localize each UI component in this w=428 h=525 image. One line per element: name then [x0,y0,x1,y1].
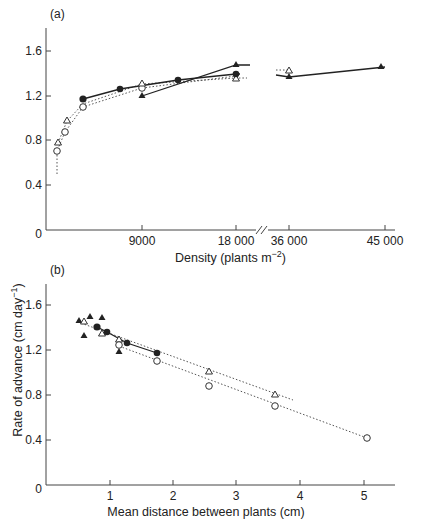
y-axis-title: Rate of advance (cm day−1) [9,283,25,436]
open-circle-markers [116,342,371,442]
open-triangle-markers [81,318,279,397]
y-tick-label: 1.6 [25,298,42,312]
y-ticks [46,305,51,440]
y-tick-label: 0.8 [25,133,42,147]
y-tick-label: 1.2 [25,89,42,103]
series-open-circles-line [57,76,236,174]
panel-b-label: (b) [50,263,65,277]
y-tick-label: 0 [35,227,42,241]
x-tick-label: 18 000 [218,234,255,248]
panel-a-label: (a) [50,7,65,21]
x-tick-label: 36 000 [271,234,308,248]
x-tick-label: 5 [361,489,368,503]
series-filled-circles-line [83,74,240,99]
x-tick-label: 2 [170,489,177,503]
y-tick-label: 0.8 [25,388,42,402]
panel-a: (a) 1.6 1.2 0.8 0.4 0 9000 18 000 [25,7,403,265]
figure-canvas: (a) 1.6 1.2 0.8 0.4 0 9000 18 000 [0,0,428,525]
x-axis-title: Density (plants m−2) [175,249,286,265]
x-tick-label: 1 [107,489,114,503]
x-axis-title: Mean distance between plants (cm) [107,505,304,519]
y-tick-label: 1.6 [25,44,42,58]
x-tick-label: 3 [233,489,240,503]
filled-triangle-markers [76,313,123,354]
axis-break-icon [256,226,267,234]
y-tick-label: 0.4 [25,433,42,447]
y-ticks [46,51,51,185]
series-open-triangles-line [58,78,247,143]
open-triangle-markers [55,67,293,145]
y-tick-label: 0.4 [25,178,42,192]
x-tick-label: 45 000 [367,234,404,248]
y-tick-label: 0 [35,482,42,496]
x-tick-label: 4 [297,489,304,503]
x-ticks [142,225,385,230]
panel-b: (b) 1.6 1.2 0.8 0.4 0 1 2 3 4 5 Mean dis… [25,263,395,519]
x-tick-label: 9000 [129,234,156,248]
x-ticks [110,480,364,485]
open-circle-fit-line [116,345,367,438]
filled-circle-markers [79,71,239,103]
y-tick-label: 1.2 [25,343,42,357]
